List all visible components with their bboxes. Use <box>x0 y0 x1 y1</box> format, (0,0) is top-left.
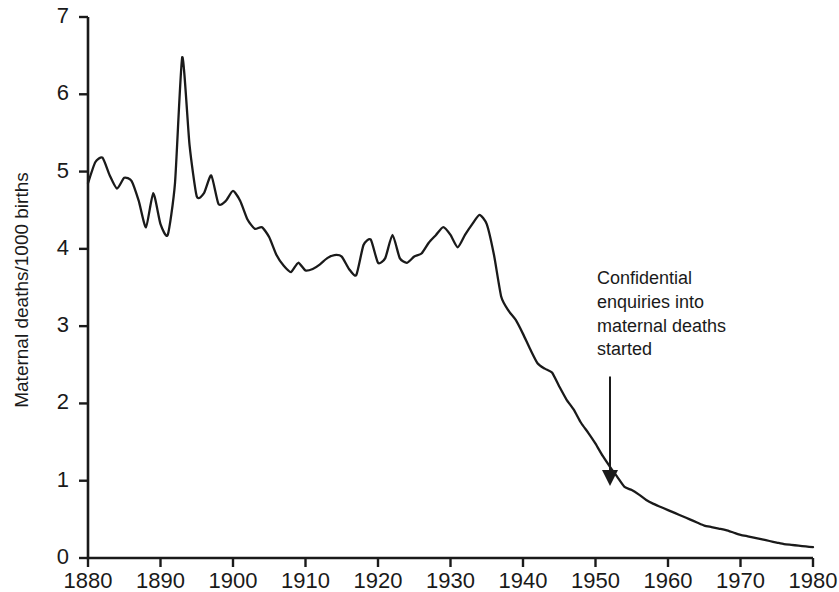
annotation-text: Confidential enquiries into maternal dea… <box>597 267 787 362</box>
y-tick-label: 1 <box>35 469 69 491</box>
x-tick-label: 1910 <box>266 570 346 592</box>
y-tick-label: 0 <box>35 546 69 568</box>
x-tick-label: 1950 <box>556 570 636 592</box>
x-tick-label: 1930 <box>411 570 491 592</box>
y-tick-label: 7 <box>35 5 69 27</box>
x-tick-label: 1940 <box>483 570 563 592</box>
y-tick-label: 5 <box>35 160 69 182</box>
y-tick-label: 3 <box>35 314 69 336</box>
annotation-arrow <box>602 376 618 486</box>
x-tick-label: 1970 <box>701 570 781 592</box>
y-axis-title-text: Maternal deaths/1000 births <box>11 172 33 408</box>
y-tick-label: 6 <box>35 82 69 104</box>
x-tick-label: 1960 <box>628 570 708 592</box>
y-tick-label: 4 <box>35 237 69 259</box>
x-tick-label: 1920 <box>338 570 418 592</box>
x-tick-label: 1880 <box>48 570 128 592</box>
x-tick-label: 1900 <box>193 570 273 592</box>
x-tick-label: 1890 <box>121 570 201 592</box>
y-tick-label: 2 <box>35 391 69 413</box>
x-tick-label: 1980 <box>773 570 839 592</box>
